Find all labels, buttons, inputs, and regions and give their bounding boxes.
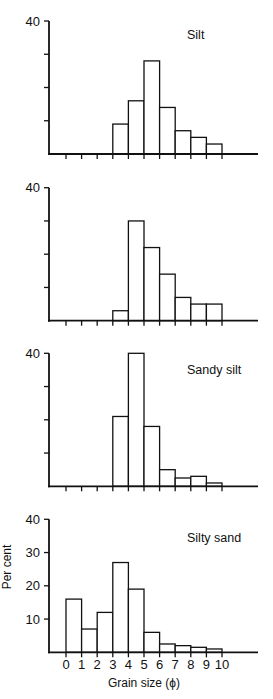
- y-tick-label: 20: [26, 578, 40, 593]
- panel-title: Silt: [187, 28, 205, 42]
- histogram-bar: [206, 304, 222, 321]
- x-tick-label: 6: [156, 657, 163, 672]
- histogram-panel-4: 10203040012345678910Silty sand: [26, 512, 258, 673]
- panel-title: Sandy silt: [187, 363, 242, 377]
- y-tick-label: 40: [26, 180, 40, 195]
- x-tick-label: 7: [172, 657, 179, 672]
- histogram-bar: [191, 304, 207, 321]
- histogram-bar: [113, 311, 129, 321]
- x-tick-label: 1: [78, 657, 85, 672]
- histogram-bar: [128, 589, 144, 652]
- x-tick-label: 2: [94, 657, 101, 672]
- grain-size-histogram-figure: 40Silt4040Sandy silt10203040012345678910…: [0, 0, 273, 699]
- histogram-bar: [175, 478, 191, 486]
- histogram-bar: [113, 124, 129, 154]
- y-axis-label: Per cent: [0, 544, 14, 589]
- x-tick-label: 4: [125, 657, 132, 672]
- histogram-bar: [144, 248, 160, 321]
- histogram-bar: [144, 61, 160, 154]
- panel-title: Silty sand: [187, 531, 241, 545]
- y-tick-label: 30: [26, 545, 40, 560]
- histogram-panel-3: 40Sandy silt: [26, 346, 258, 492]
- x-tick-label: 5: [140, 657, 147, 672]
- x-tick-label: 8: [187, 657, 194, 672]
- histogram-bar: [128, 221, 144, 321]
- histogram-panel-2: 40: [26, 180, 258, 326]
- histogram-panels: 40Silt4040Sandy silt10203040012345678910…: [26, 14, 258, 673]
- y-tick-label: 40: [26, 512, 40, 527]
- histogram-bar: [144, 632, 160, 652]
- y-tick-label: 40: [26, 14, 40, 29]
- histogram-bar: [175, 297, 191, 320]
- histogram-bar: [175, 131, 191, 154]
- x-axis-label: Grain size (ϕ): [108, 676, 180, 690]
- histogram-bar: [66, 599, 82, 652]
- histogram-bar: [206, 144, 222, 154]
- histogram-bar: [160, 274, 176, 321]
- histogram-bar: [144, 426, 160, 486]
- histogram-bar: [128, 353, 144, 486]
- histogram-bar: [160, 107, 176, 154]
- histogram-bar: [160, 470, 176, 487]
- x-tick-label: 3: [109, 657, 116, 672]
- histogram-bar: [113, 416, 129, 486]
- histogram-bar: [175, 646, 191, 653]
- histogram-bar: [97, 612, 113, 652]
- x-tick-label: 9: [203, 657, 210, 672]
- histogram-bar: [191, 476, 207, 486]
- histogram-panel-1: 40Silt: [26, 14, 258, 160]
- x-tick-label: 0: [62, 657, 69, 672]
- histogram-bar: [191, 137, 207, 154]
- x-tick-label: 10: [215, 657, 229, 672]
- y-tick-label: 40: [26, 346, 40, 361]
- histogram-bar: [113, 563, 129, 653]
- histogram-bar: [160, 644, 176, 652]
- histogram-bar: [128, 101, 144, 154]
- histogram-bar: [82, 629, 98, 652]
- y-tick-label: 10: [26, 612, 40, 627]
